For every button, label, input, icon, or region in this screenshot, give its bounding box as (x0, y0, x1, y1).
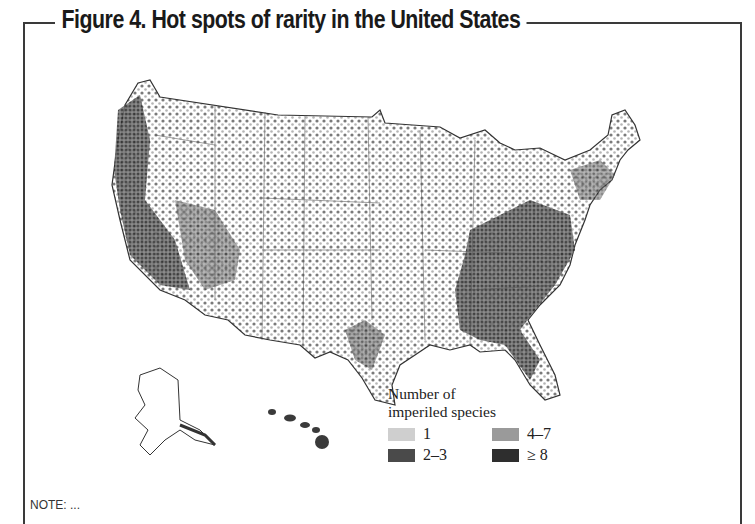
legend-item-4-7: 4–7 (492, 425, 592, 443)
legend-swatch-icon (388, 428, 415, 441)
legend-heading-line1: Number of (388, 385, 592, 403)
legend-item-2-3: 2–3 (388, 446, 492, 464)
legend-item-1: 1 (388, 425, 492, 443)
legend-swatch-icon (492, 449, 519, 462)
map-legend: Number of imperiled species 1 4–7 2–3 ≥ … (388, 385, 592, 464)
legend-item-8-plus: ≥ 8 (492, 446, 592, 464)
alaska-shape (135, 368, 215, 455)
legend-swatch-icon (492, 428, 519, 441)
legend-heading-line2: imperiled species (388, 403, 592, 421)
figure-note: NOTE: ... (30, 498, 80, 512)
legend-swatch-icon (388, 449, 415, 462)
hawaii-shape (268, 409, 329, 449)
